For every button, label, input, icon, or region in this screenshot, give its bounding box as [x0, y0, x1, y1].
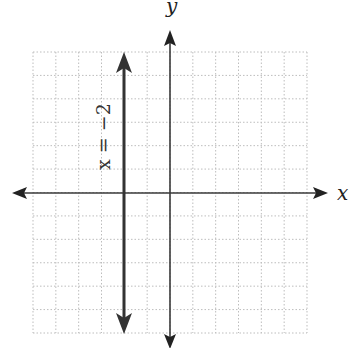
- line-equation-label: x = −2: [92, 103, 114, 170]
- x-axis-label: x: [337, 181, 348, 205]
- coordinate-plane: x y x = −2: [0, 0, 353, 348]
- y-axis-label: y: [165, 0, 178, 18]
- y-axis: [164, 30, 176, 348]
